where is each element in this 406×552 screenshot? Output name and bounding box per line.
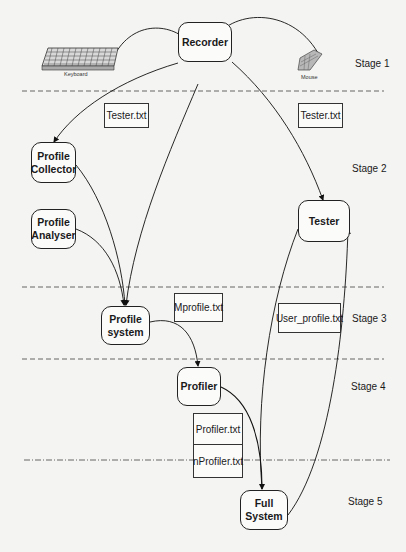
node-profile-collector-line2: Collector	[31, 163, 77, 176]
node-profile-system-line1: Profile	[109, 313, 142, 326]
diagram-canvas: Keyboard Mouse Recorder Profile Collecto…	[0, 0, 406, 552]
file-tester-txt-left-label: Tester.txt	[106, 110, 146, 121]
node-full-system-line1: Full	[255, 497, 274, 510]
node-profile-analyser[interactable]: Profile Analyser	[31, 209, 76, 249]
node-recorder[interactable]: Recorder	[178, 22, 232, 62]
mouse-icon	[298, 50, 322, 70]
file-user-profile-txt: User_profile.txt	[278, 303, 341, 333]
node-profiler[interactable]: Profiler	[177, 367, 221, 406]
node-profile-collector-line1: Profile	[37, 150, 70, 163]
stage-label-1: Stage 1	[355, 58, 389, 69]
node-profile-collector[interactable]: Profile Collector	[31, 142, 76, 183]
edge-profile-collector-profile-system	[76, 165, 125, 305]
file-user-profile-txt-label: User_profile.txt	[276, 313, 343, 324]
file-tester-txt-right-label: Tester.txt	[300, 110, 340, 121]
node-profile-system[interactable]: Profile system	[101, 306, 150, 345]
file-profiler-txt: Profiler.txt	[193, 413, 243, 445]
node-tester-label: Tester	[309, 215, 340, 228]
node-profile-analyser-line2: Analyser	[31, 229, 75, 242]
file-nprofiler-txt-label: nProfiler.txt	[193, 456, 243, 467]
file-profiler-txt-label: Profiler.txt	[196, 424, 240, 435]
edge-recorder-tester	[232, 62, 323, 200]
node-profile-system-line2: system	[107, 326, 143, 339]
edge-profile-analyser-profile-system	[76, 229, 124, 305]
stage-label-4: Stage 4	[351, 381, 385, 392]
stage-label-2: Stage 2	[352, 163, 386, 174]
file-mprofile-txt: Mprofile.txt	[174, 293, 223, 322]
node-full-system[interactable]: Full System	[240, 490, 288, 530]
file-mprofile-txt-label: Mprofile.txt	[174, 302, 223, 313]
node-recorder-label: Recorder	[182, 36, 228, 49]
keyboard-label: Keyboard	[64, 71, 88, 77]
stage-label-5: Stage 5	[348, 496, 382, 507]
mouse-label: Mouse	[301, 74, 318, 80]
stage-label-3: Stage 3	[352, 313, 386, 324]
edge-full-system-tester	[288, 229, 348, 515]
keyboard-icon	[42, 48, 118, 70]
node-full-system-line2: System	[245, 510, 282, 523]
node-profiler-label: Profiler	[181, 380, 218, 393]
file-tester-txt-left: Tester.txt	[104, 103, 149, 128]
node-tester[interactable]: Tester	[298, 200, 350, 242]
file-tester-txt-right: Tester.txt	[298, 103, 343, 128]
node-profile-analyser-line1: Profile	[37, 216, 70, 229]
file-nprofiler-txt: nProfiler.txt	[193, 444, 243, 478]
